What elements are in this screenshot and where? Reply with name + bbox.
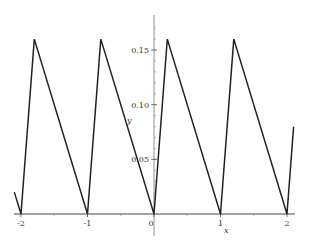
sawtooth-chart: -2-10120.050.100.15 x y xyxy=(0,0,309,246)
x-tick-label: -1 xyxy=(84,219,92,228)
y-tick-label: 0.15 xyxy=(131,46,149,55)
y-tick-label: 0.05 xyxy=(131,155,149,164)
x-tick-label: 1 xyxy=(218,219,223,228)
x-axis-label: x xyxy=(224,226,229,235)
y-axis-label: y xyxy=(126,116,132,125)
x-tick-label: 0 xyxy=(148,219,153,228)
x-tick-label: 2 xyxy=(284,219,289,228)
tick-labels: -2-10120.050.100.15 xyxy=(17,46,289,228)
x-tick-label: -2 xyxy=(17,219,25,228)
y-tick-label: 0.10 xyxy=(131,101,149,110)
